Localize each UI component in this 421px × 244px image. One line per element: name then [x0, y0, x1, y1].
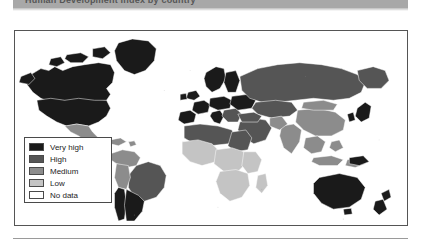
legend-swatch-medium [29, 167, 44, 175]
figure-title: Human Development Index by country [13, 0, 408, 8]
world-map-figure: .very-high{fill:#1a1a1a;} .high{fill:#55… [14, 30, 408, 226]
legend-swatch-very-high [29, 143, 44, 151]
legend-label-very-high: Very high [50, 143, 83, 152]
legend-item-no-data: No data [29, 189, 111, 201]
region-ireland [180, 93, 187, 100]
region-france-benelux [192, 100, 210, 114]
map-legend: Very high High Medium Low No data [24, 137, 112, 203]
legend-item-medium: Medium [29, 165, 111, 177]
bottom-divider [13, 238, 408, 239]
legend-item-high: High [29, 153, 111, 165]
legend-swatch-low [29, 179, 44, 187]
region-tasmania [343, 208, 352, 215]
legend-item-low: Low [29, 177, 111, 189]
figure-title-banner: Human Development Index by country [13, 0, 408, 8]
legend-swatch-no-data [29, 191, 44, 199]
legend-label-medium: Medium [50, 167, 78, 176]
banner-shadow [13, 8, 408, 11]
legend-label-high: High [50, 155, 66, 164]
legend-label-low: Low [50, 179, 65, 188]
region-iberia [178, 110, 196, 124]
legend-label-no-data: No data [50, 191, 78, 200]
legend-item-very-high: Very high [29, 141, 111, 153]
legend-swatch-high [29, 155, 44, 163]
